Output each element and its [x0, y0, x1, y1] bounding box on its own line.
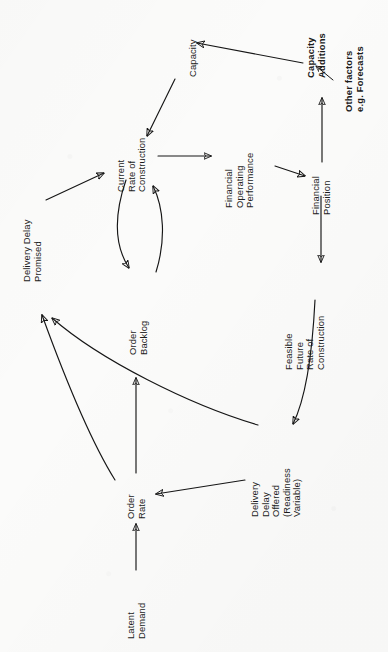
edge-current-rate-to-order-backlog [117, 180, 129, 268]
node-financial-operating-line-0: Financial [224, 153, 235, 208]
node-latent-demand-line-0: Latent [126, 603, 137, 639]
node-feasible-future-rate-of-construction: Feasible Future Rate of Construction [284, 316, 326, 370]
node-financial-operating-performance: Financial Operating Performance [224, 153, 256, 208]
node-order-backlog: Order Backlog [128, 321, 149, 355]
node-order-backlog-line-1: Backlog [139, 321, 150, 355]
edge-financial-operating-to-financial-position [275, 166, 305, 176]
node-current-rate-of-construction: Current Rate of Construction [116, 138, 148, 192]
node-capacity-line-0: Capacity [188, 39, 199, 77]
edge-capacity-additions-to-capacity [197, 43, 303, 63]
node-delivery-delay-promised-line-1: Promised [33, 219, 44, 282]
node-feasible-future-rate-line-3: Construction [316, 316, 327, 370]
node-order-rate-line-0: Order [126, 494, 137, 519]
edge-capacity-to-current-rate [147, 79, 175, 136]
node-latent-demand-line-1: Demand [137, 603, 148, 639]
arrow-layer [0, 0, 388, 652]
node-capacity-additions: Capacity Additions [306, 33, 327, 78]
node-delivery-delay-offered: Delivery Delay Offered (Readiness Variab… [250, 468, 303, 517]
node-other-factors-line-1: e.g. Forecasts [355, 46, 366, 112]
causal-loop-diagram: Capacity Capacity Additions Other factor… [0, 0, 388, 652]
node-order-rate: Order Rate [126, 494, 147, 519]
node-current-rate-line-2: Construction [137, 138, 148, 192]
node-current-rate-line-0: Current [116, 138, 127, 192]
node-capacity-additions-line-1: Additions [317, 33, 328, 78]
node-latent-demand: Latent Demand [126, 603, 147, 639]
node-other-factors-line-0: Other factors [344, 46, 355, 112]
edge-order-backlog-to-current-rate [153, 186, 162, 272]
node-financial-position-line-0: Financial [311, 176, 322, 215]
node-financial-operating-line-2: Performance [245, 153, 256, 208]
edge-delivery-delay-offered-to-delivery-delay-promised [52, 318, 258, 425]
edge-delivery-delay-offered-to-order-rate [156, 480, 245, 494]
node-delivery-delay-promised: Delivery Delay Promised [22, 219, 43, 282]
edge-delivery-delay-promised-to-current-rate [46, 173, 104, 200]
node-order-backlog-line-0: Order [128, 321, 139, 355]
node-delivery-delay-offered-line-0: Delivery [250, 468, 261, 517]
node-delivery-delay-offered-line-4: Variable) [292, 468, 303, 517]
edge-order-rate-to-delivery-delay-promised [42, 315, 115, 480]
node-other-factors: Other factors e.g. Forecasts [344, 46, 365, 112]
node-financial-position: Financial Position [311, 176, 332, 215]
node-capacity-additions-line-0: Capacity [306, 33, 317, 78]
node-capacity: Capacity [188, 39, 199, 77]
node-feasible-future-rate-line-0: Feasible [284, 316, 295, 370]
node-order-rate-line-1: Rate [137, 494, 148, 519]
node-delivery-delay-promised-line-0: Delivery Delay [22, 219, 33, 282]
node-financial-position-line-1: Position [322, 176, 333, 215]
